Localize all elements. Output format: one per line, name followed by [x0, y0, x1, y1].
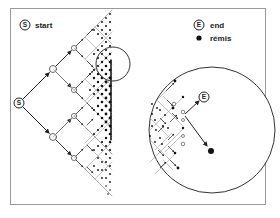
- branching-diagram: S start E end rémis: [0, 0, 280, 218]
- magnifier-small-circle: [96, 47, 130, 81]
- start-node: S: [14, 98, 24, 108]
- enlarged-view: [149, 67, 275, 193]
- legend-remis: rémis: [196, 34, 231, 43]
- start-node-letter: S: [17, 99, 22, 106]
- end-node: E: [199, 92, 209, 102]
- legend-end-label: end: [210, 21, 224, 30]
- remis-dot-icon: [196, 35, 201, 40]
- end-symbol-letter: E: [197, 21, 202, 28]
- legend-start-label: start: [35, 21, 53, 30]
- end-node-letter: E: [202, 93, 207, 100]
- magnifier-large-circle: [149, 67, 275, 193]
- legend-remis-label: rémis: [210, 34, 232, 43]
- legend-start: S start: [20, 20, 53, 30]
- remis-dot: [208, 148, 214, 154]
- start-symbol-letter: S: [23, 21, 28, 28]
- legend-end: E end: [194, 20, 224, 30]
- left-tree: [19, 10, 112, 196]
